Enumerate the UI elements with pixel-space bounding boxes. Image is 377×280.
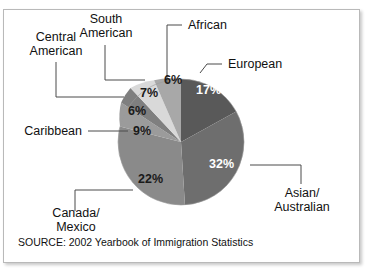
leader-line-asian-australian bbox=[250, 165, 301, 184]
pie-chart-figure: African European South American Central … bbox=[0, 0, 377, 280]
value-label-canada-mexico: 22% bbox=[138, 172, 163, 186]
label-canada-mexico-line2: Mexico bbox=[30, 220, 122, 234]
label-canada-mexico-line1: Canada/ bbox=[30, 206, 122, 220]
label-asian-australian-line2: Australian bbox=[255, 200, 349, 214]
label-european: European bbox=[228, 57, 282, 71]
label-asian-australian-line1: Asian/ bbox=[255, 186, 349, 200]
source-note: SOURCE: 2002 Yearbook of Immigration Sta… bbox=[18, 236, 253, 248]
label-asian-australian: Asian/ Australian bbox=[255, 186, 349, 214]
value-label-asian-australian: 32% bbox=[209, 157, 234, 171]
leader-line-european bbox=[200, 64, 222, 73]
label-south-american-line1: South bbox=[60, 12, 152, 26]
label-central-american-line2: American bbox=[8, 44, 104, 58]
leader-line-south-american bbox=[105, 45, 145, 80]
value-label-central-american: 6% bbox=[128, 104, 146, 118]
value-label-caribbean: 9% bbox=[133, 124, 151, 138]
label-african: African bbox=[188, 18, 227, 32]
label-central-american-line1: Central bbox=[8, 30, 104, 44]
value-label-african: 6% bbox=[164, 73, 182, 87]
label-caribbean: Caribbean bbox=[8, 124, 82, 138]
value-label-south-american: 7% bbox=[140, 86, 158, 100]
value-label-european: 17% bbox=[196, 83, 221, 97]
label-central-american: Central American bbox=[8, 30, 104, 58]
label-canada-mexico: Canada/ Mexico bbox=[30, 206, 122, 234]
